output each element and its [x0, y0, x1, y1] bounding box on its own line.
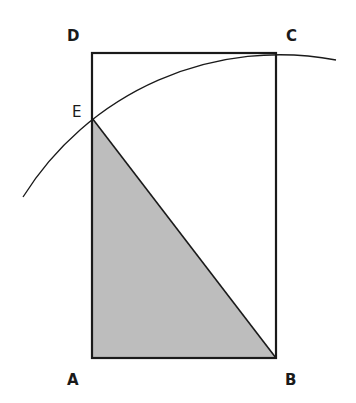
label-a: A [67, 373, 79, 388]
label-d: D [67, 29, 79, 44]
arc-centered-b [23, 55, 336, 197]
label-b: B [285, 373, 296, 388]
label-e: E [72, 105, 81, 120]
label-c: C [286, 29, 297, 44]
geometry-diagram: D C E A B [0, 0, 356, 403]
diagram-canvas [0, 0, 356, 403]
